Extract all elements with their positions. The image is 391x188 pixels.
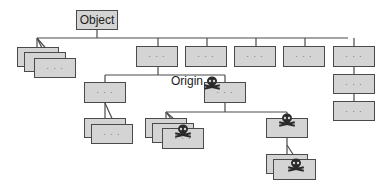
child-node-3[interactable]: · · ·: [234, 46, 276, 67]
class-hierarchy-diagram: Object · · · · · · · · · · · · · · · · ·…: [0, 0, 391, 188]
origin-label: Origin: [171, 74, 203, 88]
stacked-node-front[interactable]: · · ·: [34, 58, 76, 78]
second-level-node-left[interactable]: · · ·: [84, 82, 126, 103]
skull-crossbones-icon: [204, 76, 220, 90]
stacked-node-front-2[interactable]: · · ·: [91, 124, 133, 144]
child-node-2[interactable]: · · ·: [185, 46, 227, 67]
child-node-5[interactable]: · · ·: [333, 46, 375, 67]
child-node-5-descendant-2[interactable]: · · ·: [333, 101, 375, 121]
child-node-1[interactable]: · · ·: [136, 46, 178, 67]
child-node-4[interactable]: · · ·: [283, 46, 325, 67]
skull-crossbones-icon: [175, 124, 191, 138]
object-root-node[interactable]: Object: [76, 10, 118, 30]
skull-crossbones-icon: [288, 158, 304, 172]
child-node-5-descendant-1[interactable]: · · ·: [333, 74, 375, 94]
connector-lines: [0, 0, 391, 188]
skull-crossbones-icon: [279, 113, 295, 127]
